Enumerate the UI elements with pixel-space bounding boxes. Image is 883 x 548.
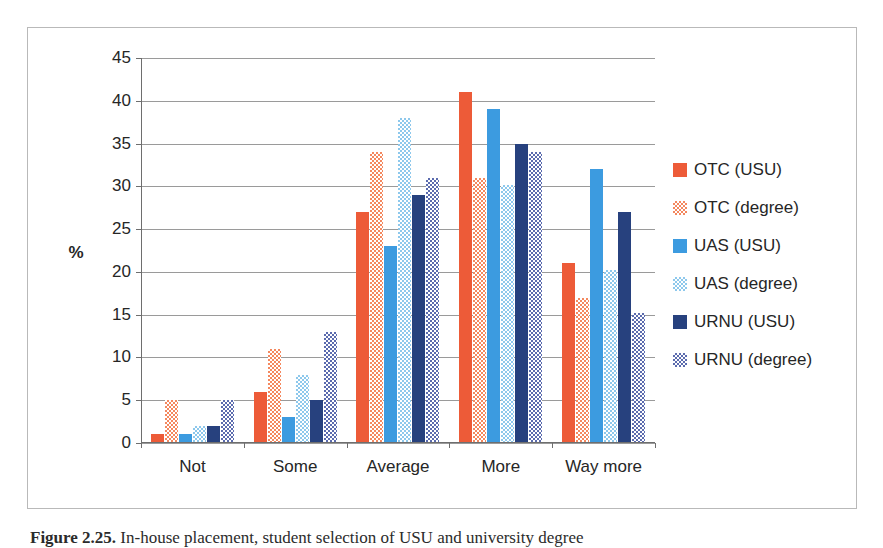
bar — [296, 375, 309, 443]
bar — [426, 178, 439, 443]
bar — [604, 270, 617, 443]
x-axis-tick-label: More — [449, 457, 552, 477]
gridline — [141, 443, 655, 444]
chart-legend: OTC (USU)OTC (degree)UAS (USU)UAS (degre… — [673, 160, 853, 388]
legend-label: URNU (degree) — [694, 350, 812, 370]
bar — [562, 263, 575, 443]
x-axis-tick-mark — [552, 443, 553, 448]
legend-label: OTC (degree) — [694, 198, 799, 218]
y-axis-tick-label: 10 — [112, 347, 131, 367]
bar — [618, 212, 631, 443]
x-axis-tick-mark — [449, 443, 450, 448]
bar — [473, 178, 486, 443]
legend-item: OTC (USU) — [673, 160, 853, 180]
bar-group: More — [449, 58, 552, 443]
plot-area: 051015202530354045 NotSomeAverageMoreWay… — [141, 58, 655, 443]
caption-number: Figure 2.25. — [30, 528, 116, 547]
x-axis-tick-label: Not — [141, 457, 244, 477]
legend-swatch — [673, 315, 687, 329]
y-axis-tick-label: 30 — [112, 176, 131, 196]
bar — [590, 169, 603, 443]
x-axis-line — [141, 442, 655, 443]
y-axis-tick-label: 0 — [122, 433, 131, 453]
y-axis-line — [141, 58, 142, 443]
bar — [487, 109, 500, 443]
legend-item: URNU (USU) — [673, 312, 853, 332]
bar — [193, 426, 206, 443]
y-axis-tick-label: 20 — [112, 262, 131, 282]
legend-swatch — [673, 163, 687, 177]
bar — [370, 152, 383, 443]
legend-item: UAS (USU) — [673, 236, 853, 256]
bar — [459, 92, 472, 443]
bar — [384, 246, 397, 443]
x-axis-tick-mark — [655, 443, 656, 448]
bar — [356, 212, 369, 443]
bar-group: Not — [141, 58, 244, 443]
bar — [412, 195, 425, 443]
bar — [310, 400, 323, 443]
y-axis-tick-label: 5 — [122, 390, 131, 410]
legend-swatch — [673, 353, 687, 367]
bar — [324, 332, 337, 443]
y-axis-tick-label: 40 — [112, 91, 131, 111]
y-axis-tick-label: 45 — [112, 48, 131, 68]
x-axis-tick-label: Way more — [552, 457, 655, 477]
bar — [254, 392, 267, 443]
bar — [529, 152, 542, 443]
bar — [221, 400, 234, 443]
legend-item: URNU (degree) — [673, 350, 853, 370]
bar-group: Some — [244, 58, 347, 443]
bar — [632, 313, 645, 443]
legend-label: URNU (USU) — [694, 312, 795, 332]
x-axis-tick-mark — [244, 443, 245, 448]
x-axis-tick-label: Some — [244, 457, 347, 477]
x-axis-tick-mark — [347, 443, 348, 448]
bar-chart: % 051015202530354045 NotSomeAverageMoreW… — [28, 28, 856, 508]
bar — [501, 185, 514, 443]
y-axis-tick-label: 25 — [112, 219, 131, 239]
legend-label: UAS (degree) — [694, 274, 798, 294]
x-axis-tick-label: Average — [347, 457, 450, 477]
legend-label: OTC (USU) — [694, 160, 782, 180]
y-axis-tick-label: 35 — [112, 134, 131, 154]
bar — [165, 400, 178, 443]
x-axis-tick-mark — [141, 443, 142, 448]
legend-swatch — [673, 201, 687, 215]
bar-group: Way more — [552, 58, 655, 443]
bar-group: Average — [347, 58, 450, 443]
figure-frame: % 051015202530354045 NotSomeAverageMoreW… — [27, 27, 857, 509]
bar — [398, 118, 411, 443]
y-axis-title: % — [56, 243, 96, 263]
bar — [207, 426, 220, 443]
bar-groups: NotSomeAverageMoreWay more — [141, 58, 655, 443]
legend-item: OTC (degree) — [673, 198, 853, 218]
bar — [515, 144, 528, 443]
legend-label: UAS (USU) — [694, 236, 781, 256]
y-axis-tick-label: 15 — [112, 305, 131, 325]
legend-swatch — [673, 239, 687, 253]
bar — [268, 349, 281, 443]
figure-caption: Figure 2.25. In-house placement, student… — [30, 528, 860, 548]
bar — [282, 417, 295, 443]
caption-text: In-house placement, student selection of… — [120, 528, 583, 547]
legend-item: UAS (degree) — [673, 274, 853, 294]
legend-swatch — [673, 277, 687, 291]
bar — [576, 298, 589, 443]
